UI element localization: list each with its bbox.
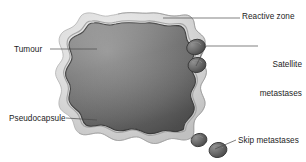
label-pseudocapsule: Pseudocapsule	[9, 114, 66, 124]
label-reactive-zone: Reactive zone	[242, 12, 295, 22]
tumour-core-mass	[65, 23, 195, 134]
label-tumour: Tumour	[14, 45, 42, 55]
anatomy-diagram-figure: Tumour Pseudocapsule Reactive zone Satel…	[0, 0, 306, 162]
skip-nodule-2	[208, 141, 229, 159]
label-skip-metastases: Skip metastases	[238, 136, 299, 146]
label-satellite-metastases: Satellite metastases	[260, 41, 302, 118]
label-satellite-line-1: Satellite	[260, 60, 302, 70]
label-satellite-line-2: metastases	[260, 89, 302, 99]
